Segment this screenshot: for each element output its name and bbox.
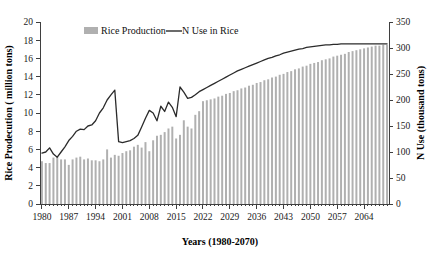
bar [102, 159, 104, 204]
y2-tick-label: 200 [396, 95, 411, 105]
bar [267, 79, 269, 204]
bar [129, 150, 131, 204]
bar [290, 71, 292, 204]
x-axis-title: Years (1980-2070) [182, 236, 258, 248]
bar [118, 156, 120, 204]
bar [56, 157, 58, 204]
bar [340, 55, 342, 204]
bar [114, 155, 116, 204]
y-tick-label: 20 [24, 17, 34, 27]
y-tick-label: 2 [28, 181, 33, 191]
bar [286, 72, 288, 204]
bar [221, 96, 223, 204]
bar [95, 160, 97, 204]
bar [263, 80, 265, 204]
bar [194, 115, 196, 204]
bar [309, 64, 311, 204]
bar [190, 128, 192, 204]
legend: Rice Production N Use in Rice [84, 25, 239, 36]
x-tick-label: 2050 [301, 212, 320, 222]
y2-tick-label: 250 [396, 69, 411, 79]
y2-tick-label: 300 [396, 43, 411, 53]
legend-swatch-rice-production [84, 27, 98, 34]
bar [325, 59, 327, 204]
bar [363, 48, 365, 204]
bar [110, 158, 112, 204]
bar [244, 88, 246, 204]
bar [98, 161, 100, 204]
x-tick-label: 2043 [274, 212, 293, 222]
bar [210, 99, 212, 204]
bar [359, 49, 361, 204]
bar [156, 136, 158, 204]
y-tick-label: 8 [28, 127, 33, 137]
x-tick-label: 2001 [113, 212, 132, 222]
bar [367, 47, 369, 204]
bar [298, 68, 300, 204]
bar [233, 91, 235, 204]
bar [187, 127, 189, 204]
bar [60, 159, 62, 204]
bar [279, 75, 281, 204]
x-tick-label: 2064 [355, 212, 374, 222]
bar [144, 142, 146, 204]
bar [306, 66, 308, 204]
bar [271, 78, 273, 204]
y2-tick-label: 0 [396, 199, 401, 209]
bar [64, 159, 66, 204]
y2-tick-label: 50 [396, 173, 406, 183]
bar [83, 159, 85, 204]
y-tick-label: 14 [24, 72, 34, 82]
bar [152, 140, 154, 204]
legend-label-n-use-in-rice: N Use in Rice [182, 25, 239, 36]
y2-tick-label: 150 [396, 121, 411, 131]
bar [237, 90, 239, 204]
x-tick-label: 2057 [328, 212, 347, 222]
plot-area [41, 44, 388, 204]
bar [49, 163, 51, 204]
y-tick-label: 18 [24, 36, 34, 46]
bar [75, 158, 77, 204]
bar [386, 45, 388, 204]
bar [275, 77, 277, 204]
bar [283, 74, 285, 204]
y-tick-label: 10 [24, 108, 34, 118]
y2-tick-label: 100 [396, 147, 411, 157]
x-tick-label: 2029 [220, 212, 239, 222]
bar [336, 56, 338, 204]
x-tick-label: 1987 [59, 212, 78, 222]
bar [313, 63, 315, 204]
bar [171, 127, 173, 204]
bar [175, 138, 177, 204]
y2-tick-label: 350 [396, 17, 411, 27]
bar [141, 148, 143, 204]
bar [91, 160, 93, 204]
bar [348, 52, 350, 204]
bar [72, 159, 74, 204]
bar [68, 165, 70, 204]
bar [229, 93, 231, 204]
legend-label-rice-production: Rice Production [101, 25, 166, 36]
bar [252, 85, 254, 204]
bar [352, 51, 354, 204]
bar [302, 67, 304, 204]
bar [198, 111, 200, 204]
bar [240, 88, 242, 204]
x-tick-label: 2022 [193, 212, 212, 222]
bar [133, 147, 135, 204]
y2-axis-title: N Use (thousand tons) [415, 66, 427, 160]
bar [260, 82, 262, 204]
y-tick-label: 16 [24, 54, 34, 64]
y-tick-label: 4 [28, 163, 33, 173]
bar [79, 157, 81, 204]
bar [294, 69, 296, 204]
bar [378, 46, 380, 204]
bar [164, 132, 166, 204]
bar [148, 151, 150, 204]
x-tick-label: 2036 [247, 212, 266, 222]
bar [329, 58, 331, 204]
bar [371, 47, 373, 204]
bar [217, 97, 219, 204]
bar [179, 135, 181, 204]
bar [106, 149, 108, 204]
